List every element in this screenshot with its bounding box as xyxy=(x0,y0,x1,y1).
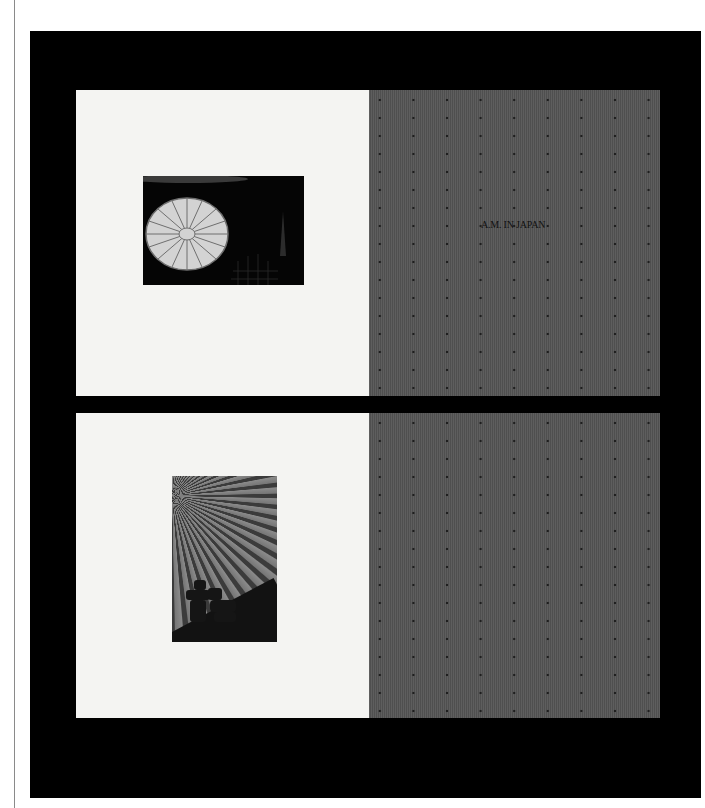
spread-bottom xyxy=(76,413,660,718)
right-page-top: A.M. IN JAPAN xyxy=(369,90,660,396)
book-title: A.M. IN JAPAN xyxy=(481,219,545,230)
chrysanthemum-icon xyxy=(143,176,304,285)
right-page-bottom xyxy=(369,413,660,718)
paper-umbrella-photo xyxy=(172,476,277,642)
spread-top: A.M. IN JAPAN xyxy=(76,90,660,396)
chrysanthemum-crest-photo xyxy=(143,176,304,285)
left-page-bottom xyxy=(76,413,369,718)
left-page-top xyxy=(76,90,369,396)
page-edge-line xyxy=(14,0,15,808)
kanji-character-icon xyxy=(184,580,242,626)
